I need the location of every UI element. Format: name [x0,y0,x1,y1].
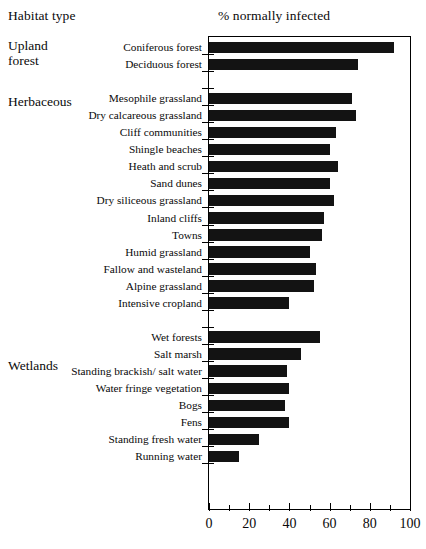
bar [209,297,289,309]
category-label: Sand dunes [150,176,202,191]
habitat-type-heading: Habitat type [8,8,76,24]
x-axis-minor-tick [350,505,351,511]
x-axis-tick-label: 80 [363,516,377,532]
category-label: Dry siliceous grassland [97,193,202,208]
x-axis-tick [410,503,411,511]
chart-title: % normally infected [218,8,330,24]
y-axis-tick [202,190,214,191]
category-label: Fallow and wasteland [103,262,202,277]
x-axis-tick [370,503,371,511]
x-axis-tick [289,503,290,511]
y-axis-tick [202,463,214,464]
category-label: Mesophile grassland [109,91,202,106]
bar-row: Shingle beaches [0,141,426,158]
bar [209,195,334,207]
category-label: Bogs [179,398,202,413]
y-axis-tick [202,173,214,174]
y-axis-tick [202,88,214,89]
row-spacer [0,73,426,90]
bar-row: Bogs [0,397,426,414]
category-label: Fens [181,415,202,430]
bar-row: Towns [0,227,426,244]
bar [209,451,239,463]
bar-row: Standing brackish/ salt water [0,363,426,380]
y-axis-tick [202,276,214,277]
bar-rows: Coniferous forestDeciduous forestMesophi… [0,36,426,510]
x-axis-tick [249,503,250,511]
bar [209,144,330,156]
category-label: Shingle beaches [129,142,202,157]
category-label: Humid grassland [125,245,202,260]
x-axis-tick-label: 0 [206,516,213,532]
bar-row: Humid grassland [0,244,426,261]
x-axis-minor-tick [310,505,311,511]
bar-row: Heath and scrub [0,158,426,175]
y-axis-tick [202,242,214,243]
category-label: Inland cliffs [147,211,202,226]
bar-row: Standing fresh water [0,431,426,448]
bar [209,365,287,377]
y-axis-tick [202,361,214,362]
bar-row: Dry siliceous grassland [0,192,426,209]
y-axis-tick [202,446,214,447]
category-label: Water fringe vegetation [96,381,202,396]
category-label: Heath and scrub [129,159,202,174]
bar-row: Intensive cropland [0,295,426,312]
category-label: Towns [172,228,202,243]
bar-row: Fallow and wasteland [0,261,426,278]
bar-row: Fens [0,414,426,431]
x-axis-tick [330,503,331,511]
category-label: Salt marsh [154,347,202,362]
y-axis-tick [202,207,214,208]
y-axis-tick [202,71,214,72]
bar [209,434,259,446]
bar [209,127,336,139]
category-label: Running water [135,449,202,464]
y-axis-tick [202,293,214,294]
bar [209,212,324,224]
y-axis-tick [202,429,214,430]
bar [209,383,289,395]
y-axis-tick [202,54,214,55]
bar [209,280,314,292]
y-axis-tick [202,310,214,311]
y-axis-tick [202,395,214,396]
x-axis-tick [209,503,210,511]
y-axis-tick [202,327,214,328]
bar-row: Sand dunes [0,175,426,192]
bar-row: Wet forests [0,329,426,346]
category-label: Intensive cropland [118,296,202,311]
bar [209,229,322,241]
bar-row: Cliff communities [0,124,426,141]
y-axis-tick [202,259,214,260]
x-axis-minor-tick [390,505,391,511]
bar [209,331,320,343]
category-label: Standing brackish/ salt water [71,364,202,379]
category-label: Alpine grassland [126,279,202,294]
category-label: Wet forests [151,330,202,345]
bar-row: Inland cliffs [0,210,426,227]
x-axis-tick-label: 100 [400,516,421,532]
y-axis-tick [202,156,214,157]
bar [209,161,338,173]
bar-row: Alpine grassland [0,278,426,295]
bar [209,417,289,429]
bar-row: Mesophile grassland [0,90,426,107]
category-label: Cliff communities [120,125,202,140]
category-label: Standing fresh water [109,432,203,447]
x-axis-minor-tick [269,505,270,511]
bar-row: Coniferous forest [0,39,426,56]
x-axis-tick-label: 20 [242,516,256,532]
y-axis-tick [202,378,214,379]
bar [209,110,356,122]
y-axis-tick [202,225,214,226]
x-axis-tick-label: 40 [282,516,296,532]
x-axis-minor-tick [229,505,230,511]
y-axis-tick [202,122,214,123]
bar-row: Salt marsh [0,346,426,363]
bar-row: Water fringe vegetation [0,380,426,397]
bar [209,263,316,275]
row-spacer [0,312,426,329]
bar [209,246,310,258]
y-axis-tick [202,344,214,345]
